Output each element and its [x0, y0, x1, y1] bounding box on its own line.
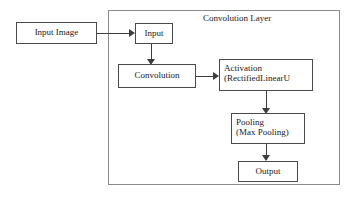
node-convolution: Convolution	[118, 64, 196, 88]
convolution-layer-title: Convolution Layer	[203, 13, 271, 23]
node-input: Input	[135, 23, 173, 44]
node-pooling-line1: Pooling	[236, 117, 304, 127]
node-pooling-line2: (Max Pooling)	[236, 127, 304, 137]
node-pooling: Pooling (Max Pooling)	[231, 113, 305, 144]
diagram-canvas: Convolution Layer Input Image Input Conv…	[0, 0, 361, 198]
node-activation-line2: (RectifiedLinearU	[224, 73, 312, 83]
node-input-image: Input Image	[16, 22, 97, 44]
node-activation: Activation (RectifiedLinearU	[219, 59, 313, 91]
node-output: Output	[238, 161, 298, 182]
edge-input-image-to-input-line	[97, 33, 132, 34]
node-activation-line1: Activation	[224, 63, 312, 73]
